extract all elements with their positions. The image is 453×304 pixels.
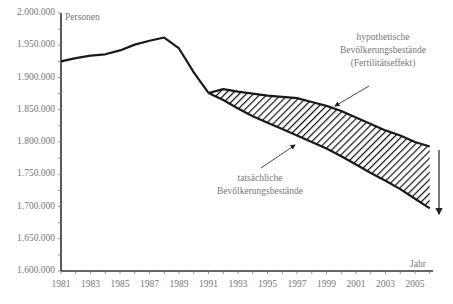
x-tick-label: 1991 <box>194 279 224 289</box>
y-tick-label: 2.000.000 <box>0 7 55 17</box>
actual-arrow <box>261 145 295 168</box>
x-tick-label: 1999 <box>312 279 342 289</box>
hypo-arrow <box>335 86 369 106</box>
y-tick-label: 1.950.000 <box>0 39 55 49</box>
y-tick-label: 1.600.000 <box>0 265 55 275</box>
x-tick-label: 1995 <box>253 279 283 289</box>
x-tick-label: 1985 <box>105 279 135 289</box>
x-axis-title: Jahr <box>410 259 426 269</box>
y-tick-label: 1.750.000 <box>0 168 55 178</box>
actual-line-1: tatsächliche <box>205 172 315 185</box>
hypothetical-annotation: hypothetische Bevölkerungsbestände (Fert… <box>328 31 438 70</box>
y-tick-label: 1.650.000 <box>0 233 55 243</box>
x-tick-label: 1987 <box>135 279 165 289</box>
actual-annotation: tatsächliche Bevölkerungsbestände <box>205 172 315 198</box>
actual-line-2: Bevölkerungsbestände <box>205 185 315 198</box>
x-tick-label: 1993 <box>223 279 253 289</box>
x-tick-label: 2005 <box>400 279 430 289</box>
x-tick-label: 1983 <box>76 279 106 289</box>
hypo-line-2: Bevölkerungsbestände <box>328 44 438 57</box>
y-tick-label: 1.850.000 <box>0 104 55 114</box>
x-tick-label: 1981 <box>46 279 76 289</box>
y-tick-label: 1.800.000 <box>0 136 55 146</box>
y-axis-title: Personen <box>65 12 100 22</box>
y-tick-label: 1.700.000 <box>0 201 55 211</box>
y-tick-label: 1.900.000 <box>0 72 55 82</box>
x-tick-label: 1997 <box>282 279 312 289</box>
x-tick-label: 2001 <box>341 279 371 289</box>
x-tick-label: 2003 <box>371 279 401 289</box>
hypo-line-1: hypothetische <box>328 31 438 44</box>
x-tick-label: 1989 <box>164 279 194 289</box>
hypo-line-3: (Fertilitätseffekt) <box>328 57 438 70</box>
main-series-line <box>61 38 209 93</box>
